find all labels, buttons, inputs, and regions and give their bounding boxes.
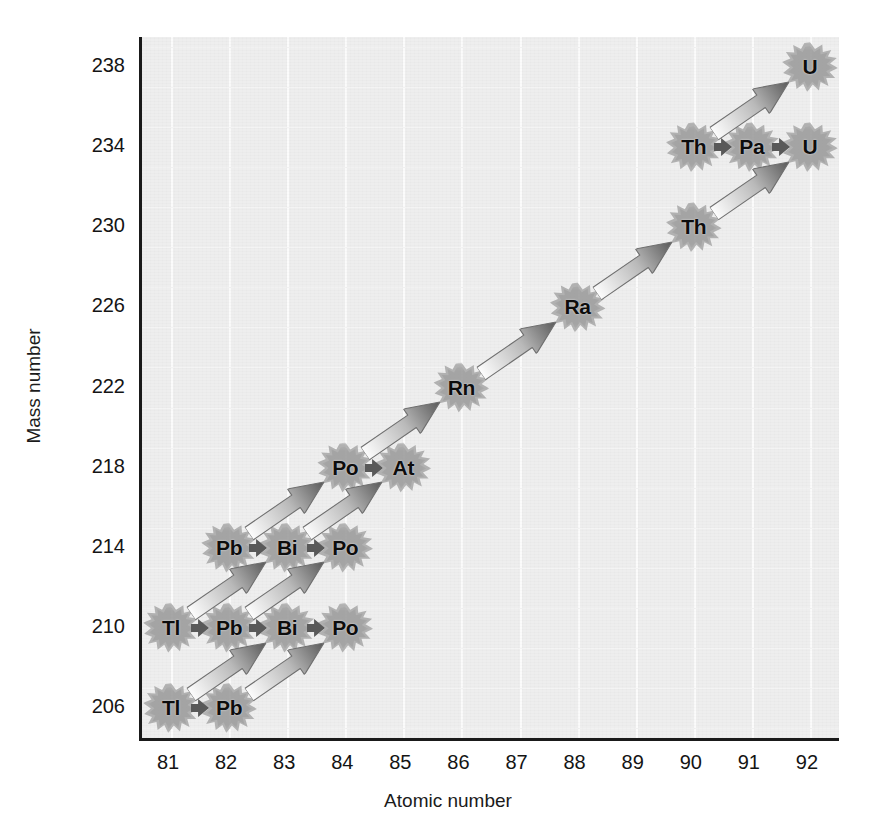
gridline-horizontal: [142, 87, 839, 88]
x-axis-title: Atomic number: [0, 790, 896, 812]
nuclide-label: At: [393, 456, 415, 480]
gridline-vertical: [636, 37, 638, 738]
nuclide-Po-210: Po: [318, 606, 372, 650]
nuclide-label: Th: [681, 135, 706, 159]
beta-decay-arrow: [191, 619, 209, 637]
x-tick-91: 91: [719, 751, 779, 774]
x-tick-82: 82: [196, 751, 256, 774]
nuclide-U-238: U: [783, 45, 837, 89]
y-axis-title: Mass number: [23, 276, 45, 496]
beta-decay-arrow: [365, 459, 383, 477]
nuclide-label: Ra: [565, 295, 591, 319]
nuclide-U-234: U: [783, 125, 837, 169]
nuclide-label: Tl: [162, 616, 180, 640]
y-tick-222: 222: [65, 375, 125, 398]
x-tick-85: 85: [370, 751, 430, 774]
nuclide-label: Po: [332, 456, 358, 480]
nuclide-label: Pb: [216, 616, 242, 640]
gridline-vertical: [403, 37, 405, 738]
gridline-horizontal: [142, 408, 839, 409]
nuclide-label: Pa: [739, 135, 764, 159]
plot-area: UThPaUThRaRnPoAtPbBiPoTlPbBiPoTlPb: [139, 37, 839, 741]
nuclide-label: Tl: [162, 696, 180, 720]
nuclide-label: Pb: [216, 536, 242, 560]
gridline-vertical: [578, 37, 580, 738]
x-tick-92: 92: [777, 751, 837, 774]
x-tick-89: 89: [603, 751, 663, 774]
nuclide-label: Bi: [277, 536, 297, 560]
beta-decay-arrow: [772, 138, 790, 156]
gridline-horizontal: [142, 287, 839, 288]
nuclide-label: Bi: [277, 616, 297, 640]
x-tick-83: 83: [254, 751, 314, 774]
y-tick-238: 238: [65, 54, 125, 77]
nuclide-label: Th: [681, 215, 706, 239]
nuclide-label: Pb: [216, 696, 242, 720]
nuclide-label: Rn: [448, 376, 475, 400]
y-tick-218: 218: [65, 455, 125, 478]
beta-decay-arrow: [191, 699, 209, 717]
beta-decay-arrow: [307, 619, 325, 637]
beta-decay-arrow: [249, 619, 267, 637]
x-tick-88: 88: [545, 751, 605, 774]
gridline-horizontal: [142, 488, 839, 489]
y-tick-230: 230: [65, 214, 125, 237]
x-tick-90: 90: [661, 751, 721, 774]
x-tick-84: 84: [312, 751, 372, 774]
y-tick-214: 214: [65, 535, 125, 558]
nuclide-label: U: [803, 135, 818, 159]
x-tick-86: 86: [428, 751, 488, 774]
beta-decay-arrow: [249, 539, 267, 557]
nuclide-label: Po: [332, 616, 358, 640]
nuclide-label: U: [803, 55, 818, 79]
decay-series-chart: Mass number Atomic number 20621021421822…: [0, 0, 896, 830]
y-tick-206: 206: [65, 695, 125, 718]
beta-decay-arrow: [307, 539, 325, 557]
gridline-horizontal: [142, 327, 839, 328]
y-tick-226: 226: [65, 294, 125, 317]
gridline-horizontal: [142, 47, 839, 48]
x-tick-87: 87: [487, 751, 547, 774]
y-tick-234: 234: [65, 134, 125, 157]
y-tick-210: 210: [65, 615, 125, 638]
nuclide-label: Po: [332, 536, 358, 560]
beta-decay-arrow: [714, 138, 732, 156]
gridline-vertical: [520, 37, 522, 738]
gridline-horizontal: [142, 247, 839, 248]
x-tick-81: 81: [138, 751, 198, 774]
gridline-horizontal: [142, 448, 839, 449]
